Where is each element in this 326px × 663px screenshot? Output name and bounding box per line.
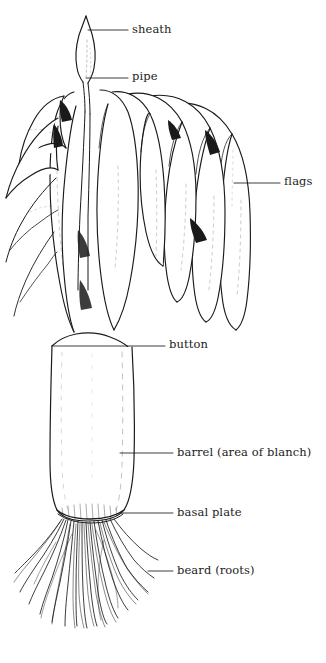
leaf-base-shade [79, 280, 92, 310]
leek-illustration [0, 0, 326, 663]
label-flags: flags [284, 176, 313, 188]
label-beard-roots: beard (roots) [177, 565, 255, 577]
plant-outline-group [6, 16, 280, 628]
flag-left-lowest [14, 232, 57, 316]
pipe-shape [78, 112, 90, 290]
flag-center-left [97, 90, 138, 330]
label-barrel: barrel (area of blanch) [177, 447, 311, 459]
barrel-shape [50, 346, 134, 521]
beard-roots-shape [14, 519, 158, 628]
button-shape [52, 333, 128, 347]
label-button: button [169, 339, 208, 351]
leek-anatomy-diagram: sheath pipe flags button barrel (area of… [0, 0, 326, 663]
sheath-shape [76, 16, 95, 114]
label-sheath: sheath [132, 24, 172, 36]
label-basal-plate: basal plate [177, 507, 242, 519]
label-pipe: pipe [132, 71, 158, 83]
